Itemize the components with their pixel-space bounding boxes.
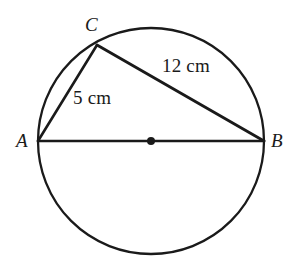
measure-label-chord-ac: 5 cm <box>73 88 111 107</box>
geometry-canvas <box>0 0 299 262</box>
vertex-label-b: B <box>271 131 283 150</box>
center-dot <box>147 137 155 145</box>
measure-label-chord-cb: 12 cm <box>162 56 210 75</box>
vertex-label-a: A <box>16 131 28 150</box>
circle-geometry-diagram: C A B 5 cm 12 cm <box>0 0 299 262</box>
vertex-label-c: C <box>85 15 98 34</box>
